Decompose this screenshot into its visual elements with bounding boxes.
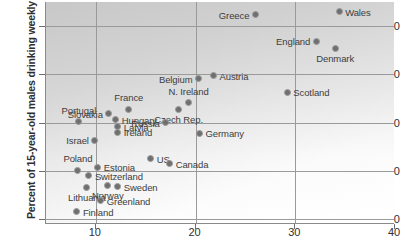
- data-point-marker[interactable]: [336, 8, 343, 15]
- data-point-marker[interactable]: [83, 184, 90, 191]
- gridline-horizontal-30: [46, 123, 394, 124]
- data-point-marker[interactable]: [284, 89, 291, 96]
- data-point-marker[interactable]: [252, 11, 259, 18]
- data-point-marker[interactable]: [85, 172, 92, 179]
- data-point-label: Belgium: [159, 73, 193, 84]
- data-point-marker[interactable]: [332, 45, 339, 52]
- data-point-marker[interactable]: [73, 208, 80, 215]
- data-point-marker[interactable]: [196, 130, 203, 137]
- gridline-horizontal-10: [46, 219, 394, 220]
- data-point-label: Greenland: [107, 195, 150, 206]
- gridline-horizontal-50: [46, 26, 394, 27]
- data-point-label: Sweden: [124, 181, 158, 192]
- data-point-label: Denmark: [316, 53, 354, 64]
- data-point-label: England: [276, 36, 310, 47]
- data-point-marker[interactable]: [91, 137, 98, 144]
- data-point-marker[interactable]: [114, 183, 121, 190]
- data-point-label: Austria: [220, 70, 249, 81]
- data-point-label: Poland: [63, 153, 92, 164]
- data-point-marker[interactable]: [313, 38, 320, 45]
- plot-area: WalesGreeceEnglandDenmarkAustriaBelgiumS…: [45, 2, 394, 224]
- data-point-label: France: [114, 92, 143, 103]
- data-point-marker[interactable]: [147, 155, 154, 162]
- data-point-label: Canada: [176, 158, 209, 169]
- data-point-label: Portugal: [62, 105, 97, 116]
- x-tick-mark-10: [95, 224, 96, 229]
- data-point-label: Scotland: [293, 87, 329, 98]
- data-point-marker[interactable]: [75, 118, 82, 125]
- data-point-marker[interactable]: [105, 110, 112, 117]
- data-point-marker[interactable]: [175, 106, 182, 113]
- data-point-marker[interactable]: [210, 72, 217, 79]
- data-point-marker[interactable]: [125, 106, 132, 113]
- x-tick-mark-30: [294, 224, 295, 229]
- data-point-marker[interactable]: [166, 160, 173, 167]
- data-point-label: Ireland: [124, 127, 152, 138]
- data-point-label: Finland: [83, 206, 113, 217]
- data-point-marker[interactable]: [185, 99, 192, 106]
- gridline-vertical-20: [196, 2, 197, 223]
- data-point-label: N. Ireland: [168, 86, 208, 97]
- data-point-marker[interactable]: [114, 129, 121, 136]
- x-tick-mark-40: [394, 224, 395, 229]
- y-axis-title: Percent of 15-year-old males drinking we…: [25, 0, 37, 226]
- data-point-label: Greece: [219, 9, 250, 20]
- x-tick-mark-20: [195, 224, 196, 229]
- data-point-marker[interactable]: [195, 75, 202, 82]
- data-point-marker[interactable]: [74, 167, 81, 174]
- data-point-label: Wales: [345, 6, 371, 17]
- data-point-label: Israel: [66, 135, 89, 146]
- data-point-label: Switzerland: [95, 170, 143, 181]
- data-point-label: Germany: [206, 128, 244, 139]
- x-tick-label-40: 40: [374, 226, 405, 238]
- data-point-marker[interactable]: [104, 182, 111, 189]
